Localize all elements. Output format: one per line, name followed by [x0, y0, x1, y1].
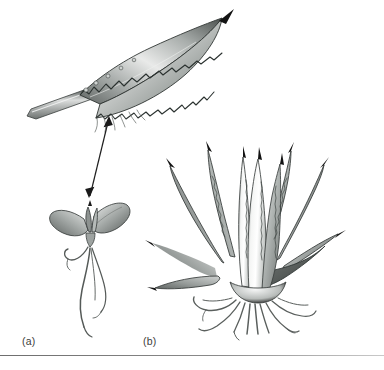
- botanical-illustration: [0, 0, 384, 370]
- panel-label-a: (a): [22, 336, 35, 347]
- figure-divider-rule: [0, 355, 384, 356]
- panel-label-b: (b): [143, 336, 156, 347]
- figure-page: (a) (b): [0, 0, 384, 370]
